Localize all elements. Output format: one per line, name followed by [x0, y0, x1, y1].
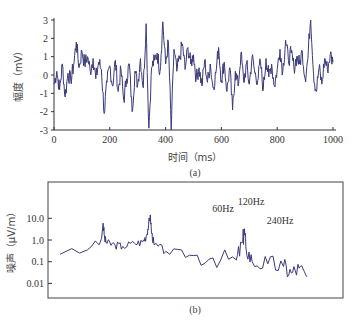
- y-tick-label: 0.1: [32, 256, 45, 267]
- y-tick-label: -1: [40, 88, 48, 99]
- chart-a-signal-line: [54, 20, 333, 130]
- chart-b-frame: [48, 182, 343, 298]
- annotation-60hz: 60Hz: [212, 203, 234, 214]
- y-tick-label: -3: [40, 125, 48, 136]
- chart-a-y-ticks: 3210-1-2-3: [40, 15, 54, 136]
- chart-a-x-axis-label: 时间（ms）: [168, 151, 223, 163]
- y-tick-label: 3: [43, 15, 48, 26]
- y-tick-label: 0: [43, 70, 48, 81]
- y-tick-label: 1.0: [32, 235, 45, 246]
- y-tick-label: -2: [40, 106, 48, 117]
- y-tick-label: 10.0: [27, 213, 45, 224]
- x-tick-label: 1000: [323, 134, 343, 145]
- figure: 3210-1-2-3 02004006008001000 幅度（mV） 时间（m…: [0, 0, 355, 332]
- chart-a: 3210-1-2-3 02004006008001000 幅度（mV） 时间（m…: [12, 15, 343, 180]
- annotation-120hz: 120Hz: [238, 196, 265, 207]
- x-tick-label: 0: [52, 134, 57, 145]
- x-tick-label: 600: [214, 134, 229, 145]
- chart-b: 10.01.00.10.01 噪声（μV/m） 60Hz 120Hz 240Hz…: [5, 182, 343, 316]
- x-tick-label: 400: [158, 134, 173, 145]
- x-tick-label: 800: [270, 134, 285, 145]
- x-tick-label: 200: [102, 134, 117, 145]
- annotation-240hz: 240Hz: [267, 215, 294, 226]
- y-tick-label: 1: [43, 51, 48, 62]
- chart-a-caption: (a): [189, 167, 200, 179]
- y-tick-label: 0.01: [27, 278, 45, 289]
- chart-a-y-axis-label: 幅度（mV）: [12, 46, 24, 103]
- chart-b-caption: (b): [189, 304, 201, 316]
- chart-b-y-axis-label: 噪声（μV/m）: [5, 207, 17, 273]
- y-tick-label: 2: [43, 33, 48, 44]
